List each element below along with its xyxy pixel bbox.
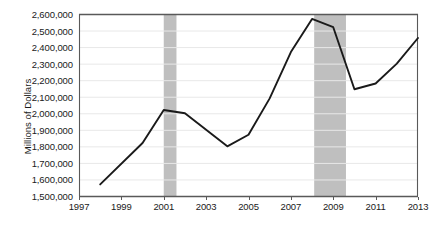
x-axis-tick-label: 2009	[323, 201, 344, 212]
chart-container: Millions of Dollars 2,600,0002,500,0002,…	[0, 0, 439, 233]
x-axis-tick-label: 2011	[366, 201, 386, 212]
x-axis-tick-label: 1997	[69, 201, 90, 212]
x-axis-tick-label: 2001	[153, 201, 174, 212]
x-axis-tick-label: 1999	[111, 201, 132, 212]
x-axis-tick-label: 2005	[238, 201, 259, 212]
x-axis-tick-label: 2013	[408, 201, 429, 212]
x-axis-tick-labels: 199719992001200320052007200920112013	[0, 0, 439, 233]
x-axis-tick-label: 2007	[281, 201, 302, 212]
x-axis-tick-label: 2003	[196, 201, 217, 212]
